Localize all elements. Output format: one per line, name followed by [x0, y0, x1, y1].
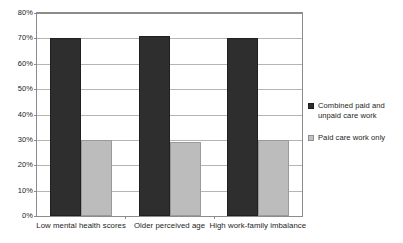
y-axis-tick — [34, 216, 37, 217]
y-axis-tick-label: 50% — [18, 85, 33, 93]
y-axis-tick-label: 0% — [22, 212, 33, 220]
category-separator — [125, 216, 126, 219]
y-axis-tick-label: 70% — [18, 34, 33, 42]
category-label: Older perceived age — [134, 221, 205, 230]
legend: Combined paid and unpaid care work Paid … — [308, 101, 402, 156]
dark-square-icon — [308, 103, 314, 109]
category-separator-layer — [37, 13, 302, 216]
plot-area: 0%10%20%30%40%50%60%70%80% — [36, 12, 303, 217]
legend-item-label: Combined paid and unpaid care work — [318, 101, 402, 120]
category-separator — [214, 216, 215, 219]
gridline — [37, 216, 302, 217]
legend-item-label: Paid care work only — [318, 133, 385, 143]
y-axis-tick-label: 10% — [18, 187, 33, 195]
y-axis-tick-label: 30% — [18, 136, 33, 144]
legend-item: Paid care work only — [308, 133, 402, 143]
category-label: High work-family imbalance — [210, 221, 307, 230]
y-axis-tick-label: 60% — [18, 60, 33, 68]
y-axis-tick-label: 40% — [18, 111, 33, 119]
bar-chart: 0%10%20%30%40%50%60%70%80% Low mental he… — [0, 0, 403, 243]
category-label: Low mental health scores — [36, 221, 126, 230]
y-axis-tick-label: 20% — [18, 161, 33, 169]
light-square-icon — [308, 135, 314, 141]
y-axis-tick-label: 80% — [18, 9, 33, 17]
legend-item: Combined paid and unpaid care work — [308, 101, 402, 120]
